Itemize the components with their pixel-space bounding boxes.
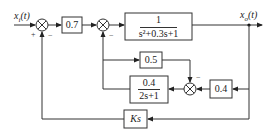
sum1-minus-sign: − [48, 32, 53, 40]
sum1-plus-sign: + [31, 31, 36, 39]
sum3-minus-sign: − [196, 74, 201, 82]
output-label: xo(t) [240, 10, 257, 23]
gain-0.7-label: 0.7 [62, 20, 82, 30]
plant-numerator: 1 [125, 15, 192, 25]
gain-0.4-label: 0.4 [210, 84, 232, 94]
derivative-label: Ks [124, 114, 147, 124]
summing-junction-3 [184, 83, 196, 95]
summing-junction-1 [36, 19, 48, 31]
summing-junction-2 [97, 19, 109, 31]
plant-denominator: s²+0.3s+1 [125, 29, 192, 39]
sum2-minus-sign: − [109, 32, 114, 40]
filter-denominator: 2s+1 [130, 91, 168, 101]
input-label: xi(t) [14, 11, 30, 24]
gain-0.5-label: 0.5 [140, 55, 162, 65]
filter-numerator: 0.4 [130, 78, 168, 88]
